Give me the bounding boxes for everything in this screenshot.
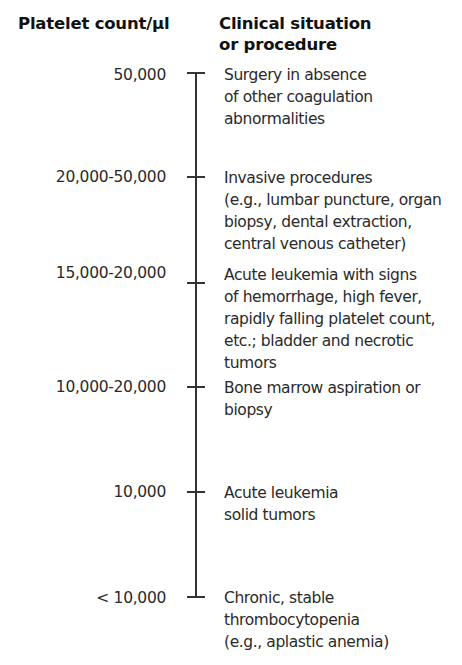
description-line: biopsy <box>224 399 456 421</box>
clinical-situation-description: Invasive procedures(e.g., lumbar punctur… <box>224 167 456 255</box>
description-line: of hemorrhage, high fever, <box>224 286 456 308</box>
description-line: Invasive procedures <box>224 167 456 189</box>
axis-tick-cross <box>187 386 205 388</box>
clinical-situation-description: Bone marrow aspiration orbiopsy <box>224 377 456 421</box>
platelet-count-label: 15,000-20,000 <box>56 263 166 283</box>
platelet-count-header: Platelet count/µl <box>18 13 178 34</box>
axis-tick-cross <box>187 176 205 178</box>
vertical-axis-line <box>195 72 197 597</box>
description-line: biopsy, dental extraction, <box>224 211 456 233</box>
clinical-situation-description: Acute leukemia with signsof hemorrhage, … <box>224 264 456 374</box>
description-line: etc.; bladder and necrotic <box>224 330 456 352</box>
axis-tick-cross <box>187 282 205 284</box>
description-line: abnormalities <box>224 108 456 130</box>
description-line: thrombocytopenia <box>224 609 456 631</box>
description-line: rapidly falling platelet count, <box>224 308 456 330</box>
description-line: Acute leukemia <box>224 482 456 504</box>
axis-tick-bottom-cap <box>187 596 205 598</box>
description-line: of other coagulation <box>224 86 456 108</box>
axis-tick-cross <box>187 491 205 493</box>
platelet-count-label: 10,000-20,000 <box>56 377 166 397</box>
clinical-situation-description: Surgery in absenceof other coagulationab… <box>224 64 456 130</box>
description-line: (e.g., aplastic anemia) <box>224 631 456 653</box>
description-line: tumors <box>224 352 456 374</box>
clinical-situation-description: Chronic, stablethrombocytopenia(e.g., ap… <box>224 587 456 653</box>
platelet-count-label: < 10,000 <box>96 588 166 608</box>
platelet-count-label: 50,000 <box>114 65 166 85</box>
axis-tick-top-cap <box>187 72 205 74</box>
description-line: solid tumors <box>224 504 456 526</box>
clinical-situation-header-line2: or procedure <box>219 34 449 55</box>
clinical-situation-header: Clinical situation or procedure <box>219 13 449 55</box>
description-line: Bone marrow aspiration or <box>224 377 456 399</box>
description-line: Chronic, stable <box>224 587 456 609</box>
description-line: (e.g., lumbar puncture, organ <box>224 189 456 211</box>
description-line: Acute leukemia with signs <box>224 264 456 286</box>
description-line: central venous catheter) <box>224 233 456 255</box>
platelet-count-label: 20,000-50,000 <box>56 167 166 187</box>
description-line: Surgery in absence <box>224 64 456 86</box>
clinical-situation-description: Acute leukemiasolid tumors <box>224 482 456 526</box>
platelet-count-label: 10,000 <box>114 482 166 502</box>
clinical-situation-header-line1: Clinical situation <box>219 13 449 34</box>
